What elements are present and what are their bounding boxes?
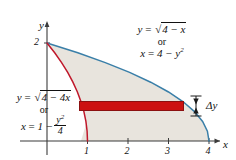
left-curve-equation-line2: x = 1 −y24 bbox=[2, 115, 86, 136]
left-curve-equals-2: = bbox=[29, 120, 35, 132]
sqrt-icon: √4 − x bbox=[154, 22, 186, 36]
left-curve-connector: or bbox=[2, 104, 86, 116]
representative-rectangle bbox=[80, 102, 184, 111]
left-curve-lhs: y bbox=[17, 91, 22, 103]
y-axis-arrow bbox=[45, 21, 50, 27]
left-curve-radicand: 4 − 4x bbox=[40, 90, 71, 104]
fraction-numerator-exponent: 2 bbox=[61, 113, 65, 121]
left-curve-equals: = bbox=[24, 91, 30, 103]
delta-y-label: Δy bbox=[206, 99, 217, 112]
x-axis-arrow bbox=[215, 139, 221, 144]
right-curve-equals: = bbox=[145, 23, 151, 35]
left-curve-equation-line1: y = √4 − 4x bbox=[2, 90, 86, 104]
x-tick-label-1: 1 bbox=[84, 145, 89, 156]
x-tick-label-3: 3 bbox=[165, 145, 170, 156]
x-tick-label-2: 2 bbox=[125, 145, 130, 156]
left-curve-rhs: 1 − bbox=[37, 120, 53, 132]
right-curve-equation-line2: x = 4 − y2 bbox=[114, 47, 210, 60]
right-curve-equation-label: y = √4 − x or x = 4 − y2 bbox=[114, 22, 210, 60]
x-tick-label-4: 4 bbox=[206, 145, 211, 156]
right-curve-radicand: 4 − x bbox=[161, 22, 186, 36]
left-curve-lhs-2: x bbox=[21, 120, 26, 132]
x-axis-label: x bbox=[223, 138, 228, 150]
right-curve-lhs-2: x bbox=[140, 47, 145, 59]
y-tick-label-2: 2 bbox=[34, 36, 39, 47]
fraction: y24 bbox=[54, 115, 66, 136]
right-curve-connector: or bbox=[114, 36, 210, 48]
right-curve-equation-line1: y = √4 − x bbox=[114, 22, 210, 36]
right-curve-rhs: 4 − y bbox=[157, 47, 180, 59]
y-axis-label: y bbox=[39, 19, 44, 31]
fraction-denominator: 4 bbox=[54, 126, 66, 136]
left-curve-equation-label: y = √4 − 4x or x = 1 −y24 bbox=[2, 90, 86, 137]
right-curve-exponent: 2 bbox=[180, 46, 184, 54]
right-curve-lhs: y bbox=[138, 23, 143, 35]
sqrt-icon: √4 − 4x bbox=[33, 90, 71, 104]
right-curve-equals-2: = bbox=[148, 47, 154, 59]
